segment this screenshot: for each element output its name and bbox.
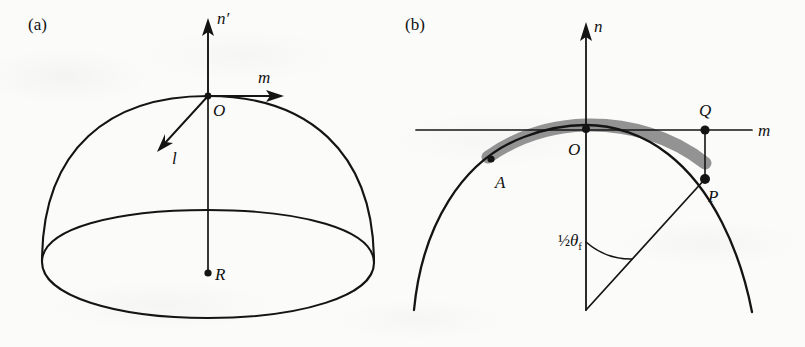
origin-dot (205, 93, 212, 100)
m-axis-label: m (758, 121, 770, 140)
point-q-dot (700, 125, 709, 134)
point-q-label: Q (699, 101, 711, 120)
point-a-label: A (494, 173, 506, 192)
point-p-dot (700, 174, 710, 184)
origin-dot (582, 125, 590, 133)
half-angle-theta: θ (570, 231, 578, 250)
point-p-label: P (707, 187, 718, 206)
n-axis-label: n (594, 17, 603, 36)
panel-a-label: (a) (28, 15, 47, 34)
l-axis-line (165, 96, 208, 143)
point-a-dot (487, 155, 494, 162)
radius-to-p (586, 179, 705, 310)
origin-label: O (213, 101, 225, 120)
center-dot (204, 269, 211, 276)
m-axis-label: m (258, 68, 270, 87)
panel-b: (b) m n ½θf O A P Q (400, 0, 805, 347)
half-angle-label: ½θf (558, 231, 582, 252)
origin-label: O (568, 140, 580, 159)
l-axis-label: l (172, 149, 177, 168)
center-label: R (214, 265, 226, 284)
panel-b-label: (b) (405, 15, 425, 34)
panel-a: (a) n′ m l O R (0, 0, 400, 347)
half-angle-fraction: ½ (558, 232, 570, 249)
half-angle-subscript: f (578, 240, 582, 252)
n-prime-axis-label: n′ (217, 9, 230, 28)
figure-container: (a) n′ m l O R (b) (0, 0, 805, 347)
angle-arc (586, 242, 632, 259)
